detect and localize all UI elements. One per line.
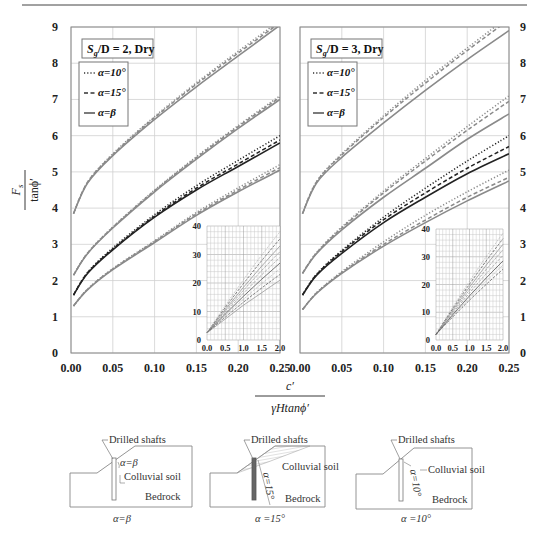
diagram-alpha-beta: Drilled shafts α=β Colluvial soil Bedroc…	[70, 434, 192, 524]
inset-x-tick: 2.0	[275, 343, 286, 353]
svg-text:Sg/D = 3, Dry: Sg/D = 3, Dry	[316, 42, 384, 58]
legend-item-label: α=β	[98, 106, 116, 118]
inset-x-tick: 0.0	[202, 343, 213, 353]
y-tick-label: 0	[520, 346, 526, 360]
inset-y-tick: 0	[197, 335, 201, 345]
y-tick-label: 2	[52, 274, 58, 288]
y-tick-label: 1	[520, 310, 526, 324]
chart-panel-right: 01234567890.000.050.100.150.200.25Sg/D =…	[290, 16, 527, 375]
x-tick-label: 0.20	[228, 361, 249, 375]
inset-y-tick: 20	[422, 280, 431, 290]
inset-y-tick: 40	[193, 221, 202, 231]
x-tick-label: 0.05	[102, 361, 123, 375]
chart-panel-left: 01234567890.000.050.100.150.200.25Sg/D =…	[52, 20, 291, 375]
y-tick-label: 3	[520, 237, 526, 251]
y-tick-label: 5	[520, 165, 526, 179]
diagram-alpha-10: Drilled shafts Colluvial soil α=10° Bedr…	[356, 434, 485, 524]
svg-text:tanϕ′: tanϕ′	[27, 178, 41, 202]
y-axis-label: Fs tanϕ′	[9, 170, 41, 210]
svg-text:Colluvial soil: Colluvial soil	[282, 461, 339, 472]
drilled-shaft	[399, 459, 403, 501]
svg-text:α=10°: α=10°	[408, 468, 424, 498]
x-tick-label: 0.15	[186, 361, 207, 375]
inset-y-tick: 30	[193, 250, 202, 260]
inset-y-tick: 30	[422, 252, 431, 262]
svg-text:Drilled shafts: Drilled shafts	[109, 434, 166, 445]
svg-text:Fs: Fs	[9, 184, 25, 196]
y-tick-label: 9	[52, 20, 58, 34]
svg-text:α=β: α=β	[113, 513, 132, 524]
figure: 01234567890.000.050.100.150.200.25Sg/D =…	[0, 0, 545, 542]
chart-legend: α=10°α=15°α=β	[79, 62, 128, 126]
svg-text:α=β: α=β	[120, 457, 139, 468]
inset-y-tick: 40	[422, 224, 431, 234]
svg-text:Sg/D = 2, Dry: Sg/D = 2, Dry	[87, 42, 155, 58]
x-tick-label: 0.25	[270, 361, 291, 375]
legend-item-label: α=10°	[327, 66, 355, 78]
y-tick-label: 1	[52, 310, 58, 324]
y-tick-label: 0	[52, 346, 58, 360]
legend-item-label: α=10°	[98, 66, 126, 78]
x-tick-label: 0.10	[144, 361, 165, 375]
svg-text:α =15°: α =15°	[255, 513, 286, 524]
inset-x-tick: 1.0	[238, 343, 249, 353]
y-tick-label: 8	[520, 56, 526, 70]
y-tick-label: 3	[52, 237, 58, 251]
x-tick-label: 0.00	[61, 361, 82, 375]
inset-chart: 0102030400.00.51.01.52.0	[193, 221, 286, 353]
diagram-alpha-15: Drilled shafts Colluvial soil α=15° Bedr…	[210, 434, 339, 524]
y-tick-label: 9	[520, 20, 526, 34]
y-tick-label: 4	[52, 201, 58, 215]
y-tick-label: 8	[52, 56, 58, 70]
x-tick-label: 0.15	[415, 361, 436, 375]
inset-x-tick: 1.0	[464, 343, 475, 353]
y-tick-label: 5	[52, 165, 58, 179]
inset-y-tick: 20	[193, 278, 202, 288]
x-tick-label: 0.25	[499, 361, 520, 375]
legend-item-label: α=15°	[98, 86, 126, 98]
inset-x-tick: 0.5	[220, 343, 231, 353]
y-tick-label: 2	[520, 274, 526, 288]
chart-legend: α=10°α=15°α=β	[308, 62, 357, 126]
x-tick-label: 0.05	[331, 361, 352, 375]
inset-x-tick: 0.5	[447, 343, 458, 353]
inset-x-tick: 0.0	[431, 343, 442, 353]
x-axis-label: c′ γHtanϕ′	[255, 379, 325, 415]
y-tick-label: 7	[520, 92, 526, 106]
svg-text:α=15°: α=15°	[261, 471, 277, 501]
svg-text:Colluvial soil: Colluvial soil	[428, 464, 485, 475]
chart-title-box: Sg/D = 3, Dry	[311, 39, 384, 58]
slope-diagrams: Drilled shafts α=β Colluvial soil Bedroc…	[70, 434, 485, 524]
svg-text:Drilled shafts: Drilled shafts	[398, 434, 455, 445]
svg-text:Bedrock: Bedrock	[285, 493, 321, 504]
svg-text:Drilled shafts: Drilled shafts	[251, 434, 308, 445]
y-tick-label: 6	[52, 129, 58, 143]
x-tick-label: 0.20	[457, 361, 478, 375]
svg-text:α =10°: α =10°	[401, 513, 432, 524]
inset-chart: 0102030400.00.51.01.52.0	[422, 224, 509, 353]
svg-text:Bedrock: Bedrock	[145, 491, 181, 502]
inset-y-tick: 10	[422, 307, 431, 317]
legend-item-label: α=β	[327, 106, 345, 118]
svg-text:γHtanϕ′: γHtanϕ′	[271, 401, 309, 415]
drilled-shaft	[112, 458, 116, 500]
legend-item-label: α=15°	[327, 86, 355, 98]
inset-y-tick: 0	[426, 335, 430, 345]
inset-x-tick: 1.5	[256, 343, 267, 353]
x-tick-label: 0.10	[373, 361, 394, 375]
drilled-shaft	[252, 458, 256, 500]
svg-text:Colluvial soil: Colluvial soil	[124, 471, 181, 482]
svg-text:Bedrock: Bedrock	[432, 494, 468, 505]
x-tick-label: 0.00	[290, 361, 311, 375]
y-tick-label: 7	[52, 92, 58, 106]
y-tick-label: 6	[520, 129, 526, 143]
inset-x-tick: 1.5	[481, 343, 492, 353]
chart-title-box: Sg/D = 2, Dry	[82, 39, 155, 58]
inset-y-tick: 10	[193, 307, 202, 317]
inset-x-tick: 2.0	[498, 343, 509, 353]
y-tick-label: 4	[520, 201, 526, 215]
svg-text:c′: c′	[286, 379, 294, 393]
